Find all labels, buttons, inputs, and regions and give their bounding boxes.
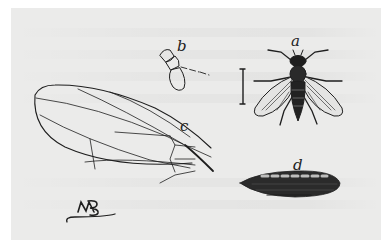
figure-d-pupa (240, 171, 340, 197)
label-c: c (180, 117, 189, 135)
figure-artwork: a b c d (0, 0, 389, 247)
label-b: b (177, 37, 187, 55)
figure-b-antenna (160, 50, 209, 91)
scale-bar-a (240, 69, 245, 104)
label-d: d (293, 156, 303, 174)
figure-a-fly (254, 50, 343, 125)
label-a: a (291, 32, 300, 50)
artist-monogram (67, 201, 115, 222)
